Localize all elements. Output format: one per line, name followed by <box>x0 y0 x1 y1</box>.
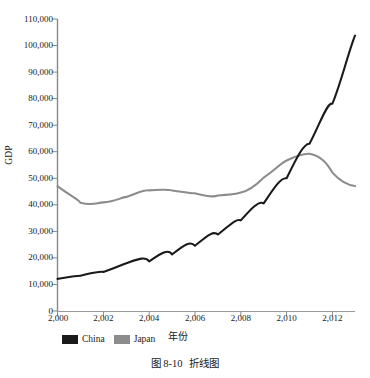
y-tick-label: 40,000 <box>7 200 53 209</box>
x-tick-label: 2,002 <box>83 313 123 323</box>
legend-item-japan: Japan <box>114 334 156 344</box>
figure-line-chart: GDP 110,000 100,000 90,000 80,000 70,000… <box>0 0 370 378</box>
series-line-china <box>58 36 356 279</box>
x-tick-label: 2,010 <box>267 313 307 323</box>
x-tick-label: 2,004 <box>129 313 169 323</box>
y-tick-label: 20,000 <box>7 253 53 262</box>
y-tick-label: 100,000 <box>7 41 53 50</box>
x-tick-label: 2,000 <box>38 313 78 323</box>
x-tick-label: 2,006 <box>175 313 215 323</box>
x-axis-tick-labels: 2,000 2,002 2,004 2,006 2,008 2,010 2,01… <box>0 313 370 329</box>
x-tick-label: 2,008 <box>221 313 261 323</box>
series-line-japan <box>58 154 356 204</box>
y-axis-tick-labels: 110,000 100,000 90,000 80,000 70,000 60,… <box>0 0 53 318</box>
x-axis-title: 年份 <box>168 331 188 343</box>
legend-label-japan: Japan <box>134 334 156 344</box>
y-tick-label: 80,000 <box>7 94 53 103</box>
x-tick-label: 2,012 <box>312 313 352 323</box>
legend-swatch-japan <box>114 335 130 344</box>
legend-swatch-china <box>62 335 78 344</box>
chart-plot-area: GDP 110,000 100,000 90,000 80,000 70,000… <box>0 0 370 318</box>
chart-legend: China Japan <box>62 332 155 346</box>
y-tick-label: 50,000 <box>7 174 53 183</box>
chart-svg <box>0 0 370 318</box>
figure-caption: 图 8-10折线图 <box>0 357 370 370</box>
y-tick-label: 60,000 <box>7 147 53 156</box>
figure-caption-text: 折线图 <box>189 357 219 369</box>
legend-item-china: China <box>62 334 105 344</box>
figure-caption-number: 图 8-10 <box>151 358 183 369</box>
y-tick-label: 110,000 <box>7 15 53 24</box>
y-tick-label: 70,000 <box>7 121 53 130</box>
legend-label-china: China <box>82 334 105 344</box>
y-tick-label: 10,000 <box>7 280 53 289</box>
y-tick-label: 90,000 <box>7 68 53 77</box>
y-tick-label: 30,000 <box>7 227 53 236</box>
